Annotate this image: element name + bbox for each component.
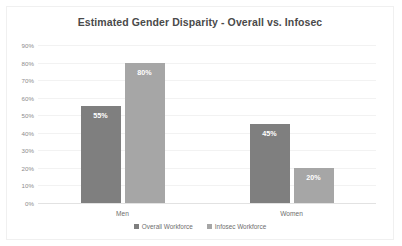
- gridline: 70%: [38, 80, 376, 81]
- bar: 45%: [250, 124, 290, 203]
- y-axis-tick-label: 20%: [22, 164, 34, 171]
- y-axis-tick-label: 80%: [22, 59, 34, 66]
- y-axis-tick-label: 60%: [22, 94, 34, 101]
- legend-label: Infosec Workforce: [215, 223, 266, 230]
- x-axis-category-label: Men: [116, 210, 129, 217]
- y-axis-tick-label: 30%: [22, 147, 34, 154]
- bar-value-label: 20%: [294, 173, 334, 182]
- y-axis-tick-label: 0%: [25, 200, 34, 207]
- y-axis-tick-label: 10%: [22, 182, 34, 189]
- bar: 80%: [125, 63, 165, 203]
- y-axis-tick-label: 70%: [22, 77, 34, 84]
- bar: 55%: [81, 106, 121, 203]
- y-axis-tick-label: 90%: [22, 42, 34, 49]
- axis-baseline: 0%: [38, 203, 376, 204]
- legend-item: Infosec Workforce: [207, 223, 266, 230]
- x-axis-category-label: Women: [280, 210, 303, 217]
- legend-swatch-icon: [207, 224, 212, 229]
- chart-title: Estimated Gender Disparity - Overall vs.…: [7, 16, 393, 28]
- chart-legend: Overall WorkforceInfosec Workforce: [7, 223, 393, 230]
- legend-label: Overall Workforce: [142, 223, 193, 230]
- gridline: 80%: [38, 63, 376, 64]
- y-axis-tick-label: 50%: [22, 112, 34, 119]
- chart-container: Estimated Gender Disparity - Overall vs.…: [6, 6, 394, 240]
- bar-value-label: 45%: [250, 129, 290, 138]
- legend-swatch-icon: [134, 224, 139, 229]
- bar-value-label: 55%: [81, 111, 121, 120]
- plot-area: 90%80%70%60%50%40%30%20%10%0%55%80%Men45…: [38, 45, 376, 203]
- bar-value-label: 80%: [125, 68, 165, 77]
- legend-item: Overall Workforce: [134, 223, 193, 230]
- bar: 20%: [294, 168, 334, 203]
- gridline: 60%: [38, 98, 376, 99]
- gridline: 90%: [38, 45, 376, 46]
- y-axis-tick-label: 40%: [22, 129, 34, 136]
